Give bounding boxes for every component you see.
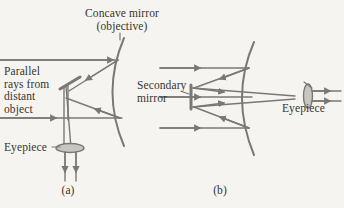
panel-a-eyepiece-lens — [56, 144, 84, 153]
panel-b-out-ray-upper — [193, 88, 295, 96]
caption-a: (a) — [50, 184, 86, 197]
caption-b: (b) — [202, 184, 238, 197]
panel-b-objective-mirror — [242, 42, 254, 155]
label-eyepiece-a: Eyepiece — [4, 141, 60, 154]
panel-a-objective-mirror — [113, 38, 125, 146]
figure-canvas: Concave mirror (objective) Parallel rays… — [0, 0, 344, 208]
label-eyepiece-b: Eyepiece — [282, 102, 340, 115]
label-secondary-mirror: Secondary mirror — [137, 79, 197, 104]
panel-b-out-ray-lower — [193, 99, 295, 107]
label-parallel-rays: Parallel rays from distant object — [4, 65, 66, 115]
panel-a-reflected-ray-upper — [69, 60, 118, 91]
figure-title: Concave mirror (objective) — [74, 7, 170, 32]
panel-b-reflect-lower — [194, 107, 249, 128]
panel-b-reflect-upper — [194, 68, 249, 88]
